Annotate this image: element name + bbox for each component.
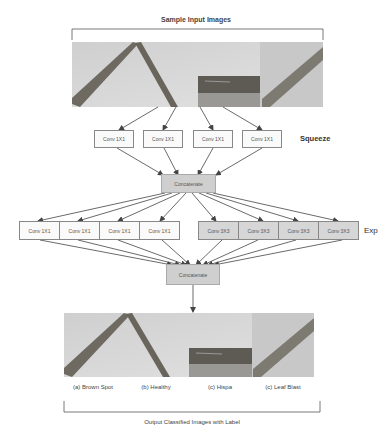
arrows-concat-to-expand bbox=[38, 193, 338, 221]
arrows-input-to-squeeze bbox=[119, 107, 262, 130]
squeeze-conv-1x1-1: Conv 1X1 bbox=[94, 130, 134, 148]
squeeze-label: Squeeze bbox=[300, 134, 330, 143]
squeeze-conv-1x1-3: Conv 1X1 bbox=[193, 130, 233, 148]
expand-conv-3x3-3: Conv 3X3 bbox=[278, 221, 319, 240]
output-label-leaf-blast: (c) Leaf Blast bbox=[258, 384, 308, 390]
arrows-squeeze-to-concat bbox=[117, 148, 262, 175]
input-bracket bbox=[72, 29, 323, 40]
diagram-canvas bbox=[0, 0, 392, 437]
output-images-strip bbox=[64, 313, 314, 377]
output-bracket bbox=[64, 401, 320, 412]
squeeze-conv-1x1-2: Conv 1X1 bbox=[143, 130, 183, 148]
expand-conv-3x3-4: Conv 3X3 bbox=[318, 221, 359, 240]
expand-conv-1x1-1: Conv 1X1 bbox=[19, 221, 60, 240]
output-label-brown-spot: (a) Brown Spot bbox=[68, 384, 118, 390]
expand-conv-1x1-2: Conv 1X1 bbox=[59, 221, 100, 240]
expand-conv-1x1-4: Conv 1X1 bbox=[139, 221, 180, 240]
expand-label: Exp bbox=[364, 226, 378, 235]
input-images-strip bbox=[72, 42, 323, 107]
output-images-title: Output Classified Images with Label bbox=[122, 419, 262, 425]
expand-conv-1x1-3: Conv 1X1 bbox=[99, 221, 140, 240]
concatenate-node-1: Concatenate bbox=[161, 174, 216, 193]
expand-conv-3x3-2: Conv 3X3 bbox=[238, 221, 279, 240]
output-label-healthy: (b) Healthy bbox=[134, 384, 178, 390]
squeeze-conv-1x1-4: Conv 1X1 bbox=[242, 130, 282, 148]
expand-conv-3x3-1: Conv 3X3 bbox=[198, 221, 239, 240]
output-label-hispa: (c) Hispa bbox=[200, 384, 240, 390]
arrows-expand-to-concat bbox=[40, 240, 342, 265]
concatenate-node-2: Concatenate bbox=[166, 264, 220, 285]
